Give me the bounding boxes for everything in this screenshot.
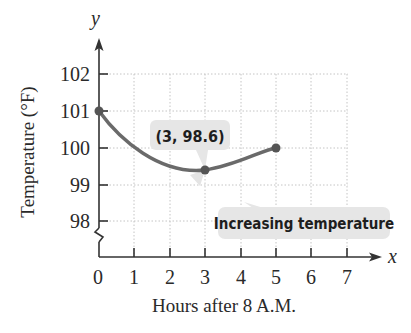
x-tick-label: 1 — [129, 266, 139, 288]
x-tick-label: 6 — [306, 266, 316, 288]
axis-break-icon — [95, 228, 103, 242]
y-tick-label: 100 — [60, 137, 90, 159]
callout-point: (3, 98.6) — [150, 120, 230, 186]
x-axis-label: Hours after 8 A.M. — [152, 295, 296, 316]
data-point — [95, 107, 104, 116]
callout-trend: Increasing temperature — [214, 202, 394, 239]
x-tick-label: 2 — [165, 266, 175, 288]
x-tick-label: 0 — [93, 266, 103, 288]
y-axis-label: Temperature (°F) — [17, 86, 39, 217]
x-tick-label: 5 — [271, 266, 281, 288]
x-axis-symbol: x — [387, 245, 397, 267]
y-tick-label: 99 — [70, 174, 90, 196]
y-tick-label: 101 — [60, 100, 90, 122]
y-tick-labels: 102 101 100 99 98 — [60, 63, 90, 232]
y-tick-label: 98 — [70, 210, 90, 232]
x-tick-labels: 0 1 2 3 4 5 6 7 — [93, 266, 352, 288]
data-point — [272, 144, 281, 153]
x-tick-label: 3 — [200, 266, 210, 288]
y-axis-symbol: y — [89, 7, 100, 30]
callout-point-label: (3, 98.6) — [155, 127, 224, 146]
callout-trend-label: Increasing temperature — [214, 215, 394, 233]
x-tick-label: 7 — [342, 266, 352, 288]
chart-canvas: y x 102 101 100 99 98 0 1 2 3 4 5 6 7 Ho… — [0, 0, 411, 333]
y-tick-label: 102 — [60, 63, 90, 85]
x-tick-label: 4 — [236, 266, 246, 288]
data-point — [201, 166, 210, 175]
